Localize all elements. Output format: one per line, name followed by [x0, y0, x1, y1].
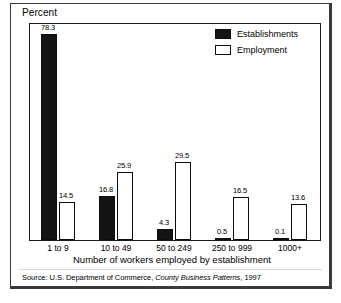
bar-value-establishments-1: 16.8: [92, 186, 120, 194]
legend-item-establishments: Establishments: [215, 28, 298, 39]
bar-value-employment-3: 16.5: [226, 187, 254, 195]
legend-label-employment: Employment: [237, 45, 287, 55]
legend-swatch-employment: [215, 45, 231, 55]
legend-item-employment: Employment: [215, 44, 298, 55]
bar-value-employment-4: 13.6: [284, 194, 312, 202]
x-tick-label-4: 1000+: [251, 243, 329, 253]
bar-employment-0: [59, 202, 75, 240]
bar-establishments-2: [157, 229, 173, 240]
bar-establishments-0: [41, 34, 57, 240]
source-suffix: , 1997: [240, 273, 261, 282]
bar-establishments-1: [99, 196, 115, 240]
y-axis-title: Percent: [22, 7, 57, 18]
bar-value-establishments-3: 0.5: [208, 228, 236, 236]
chart-legend: Establishments Employment: [215, 28, 298, 60]
bar-employment-1: [117, 172, 133, 240]
bar-value-establishments-0: 78.3: [34, 24, 62, 32]
source-prefix: Source: U.S. Department of Commerce,: [22, 273, 155, 282]
bar-value-employment-1: 25.9: [110, 162, 138, 170]
bar-value-establishments-4: 0.1: [266, 228, 294, 236]
bar-value-employment-2: 29.5: [168, 152, 196, 160]
legend-swatch-establishments: [215, 29, 231, 39]
bar-value-establishments-2: 4.3: [150, 219, 178, 227]
figure-panel: Percent Establishments Employment Number…: [10, 3, 332, 289]
bar-establishments-4: [273, 238, 289, 240]
source-publication: County Business Patterns: [155, 273, 240, 282]
source-note: Source: U.S. Department of Commerce, Cou…: [22, 273, 261, 283]
legend-label-establishments: Establishments: [237, 29, 298, 39]
x-axis-title: Number of workers employed by establishm…: [11, 254, 333, 265]
bar-value-employment-0: 14.5: [52, 192, 80, 200]
source-divider: [19, 269, 322, 270]
bar-employment-2: [175, 162, 191, 240]
bar-establishments-3: [215, 238, 231, 240]
